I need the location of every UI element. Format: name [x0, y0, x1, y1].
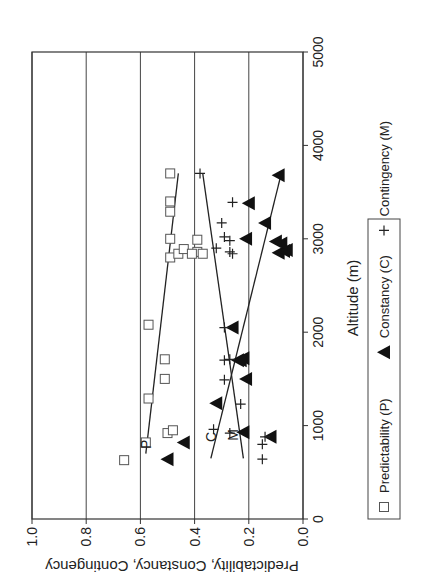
data-point [193, 235, 202, 244]
data-point [219, 355, 229, 365]
legend-label: Contingency (M) [377, 121, 392, 216]
y-tick-label: 0.0 [295, 527, 311, 547]
legend: Predictability (P)Constancy (C)Contingen… [368, 121, 400, 519]
data-point [258, 216, 271, 230]
data-point [236, 399, 246, 409]
x-tick-label: 2000 [310, 316, 326, 347]
data-point [272, 168, 285, 182]
data-point [260, 432, 270, 442]
x-tick-label: 5000 [310, 36, 326, 67]
data-point [161, 452, 174, 466]
x-tick-label: 3000 [310, 223, 326, 254]
data-point [257, 439, 267, 449]
x-axis-label: Altitude (m) [344, 260, 361, 337]
data-point [219, 375, 229, 385]
data-point [120, 456, 129, 465]
data-point [225, 354, 235, 364]
data-point [198, 249, 207, 258]
y-tick-label: 0.8 [78, 527, 94, 547]
x-tick-label: 0 [310, 515, 326, 523]
data-point [225, 247, 235, 257]
data-point [228, 197, 238, 207]
data-point [187, 249, 196, 258]
data-point [166, 169, 175, 178]
data-point [177, 435, 190, 449]
data-points [120, 168, 293, 466]
data-point [160, 355, 169, 364]
data-point [166, 234, 175, 243]
data-point [168, 426, 177, 435]
trend-label: P [138, 440, 154, 449]
data-point [239, 372, 252, 386]
data-point [209, 396, 222, 410]
y-tick-label: 1.0 [24, 527, 40, 547]
trend-label: M [225, 429, 241, 441]
y-tick-label: 0.4 [187, 527, 203, 547]
y-tick-label: 0.6 [132, 527, 148, 547]
data-point [166, 207, 175, 216]
y-tick-label: 0.2 [241, 527, 257, 547]
legend-label: Predictability (P) [377, 398, 392, 493]
data-point [219, 323, 229, 333]
data-point [269, 235, 282, 249]
x-tick-label: 4000 [310, 130, 326, 161]
data-point [160, 374, 169, 383]
trend-label: C [203, 432, 219, 442]
rotated-figure: PCM 010002000300040005000 0.00.20.40.60.… [0, 0, 440, 585]
data-point [239, 232, 252, 246]
data-point [228, 249, 238, 259]
x-tick-label: 1000 [310, 410, 326, 441]
data-point [217, 218, 227, 228]
y-axis-label: Predictability, Constancy, Contingency [45, 558, 299, 575]
trend-line [203, 173, 244, 458]
data-point [166, 197, 175, 206]
scatter-chart: PCM 010002000300040005000 0.00.20.40.60.… [0, 0, 440, 585]
x-axis-ticks: 010002000300040005000 [303, 36, 326, 523]
data-point [257, 454, 267, 464]
legend-label: Constancy (C) [377, 255, 392, 338]
legend-marker [380, 503, 389, 512]
data-point [144, 394, 153, 403]
data-point [144, 320, 153, 329]
y-axis-ticks: 0.00.20.40.60.81.0 [24, 519, 311, 546]
